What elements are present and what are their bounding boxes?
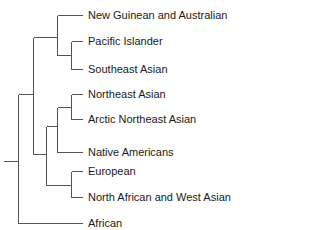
leaf-label-pacific: Pacific Islander [88, 35, 163, 47]
leaf-label-african: African [88, 217, 122, 229]
leaf-label-european: European [88, 165, 136, 177]
leaf-label-northeast: Northeast Asian [88, 88, 166, 100]
leaf-label-new-guinean: New Guinean and Australian [88, 9, 227, 21]
leaf-label-southeast: Southeast Asian [88, 63, 168, 75]
leaf-label-arctic: Arctic Northeast Asian [88, 113, 196, 125]
leaf-label-north-african: North African and West Asian [88, 191, 231, 203]
leaf-label-native-americans: Native Americans [88, 146, 174, 158]
